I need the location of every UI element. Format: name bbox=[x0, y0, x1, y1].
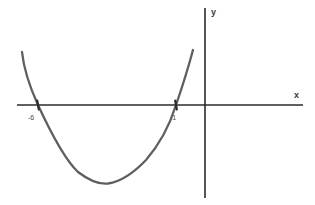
parabola-curve bbox=[22, 50, 193, 184]
x-intercept-label-right: -1 bbox=[170, 114, 176, 121]
root-left-marker bbox=[37, 101, 39, 110]
x-axis-label: x bbox=[294, 91, 299, 100]
graph-figure: y x -6 -1 bbox=[0, 0, 315, 205]
coordinate-plot bbox=[0, 0, 315, 205]
x-intercept-label-left: -6 bbox=[28, 114, 34, 121]
y-axis-label: y bbox=[211, 8, 216, 17]
